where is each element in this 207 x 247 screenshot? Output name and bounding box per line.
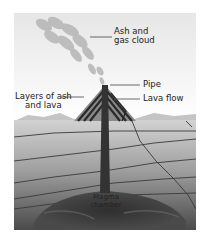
volcano-diagram: Ash and gas cloud Pipe Lava flow Layers … xyxy=(14,13,196,230)
lava-flow-label: Lava flow xyxy=(143,94,183,103)
ash-cloud-label-line2: gas cloud xyxy=(114,36,155,45)
magma-chamber-label: Magma chamber xyxy=(86,193,126,209)
pipe-label: Pipe xyxy=(143,80,161,89)
magma-chamber-label-line1: Magma xyxy=(86,193,126,201)
layers-label: Layers of ash and lava xyxy=(15,92,72,110)
ash-cloud-label: Ash and gas cloud xyxy=(114,27,155,45)
layers-label-line2: and lava xyxy=(15,101,72,110)
magma-chamber-label-line2: chamber xyxy=(86,201,126,209)
